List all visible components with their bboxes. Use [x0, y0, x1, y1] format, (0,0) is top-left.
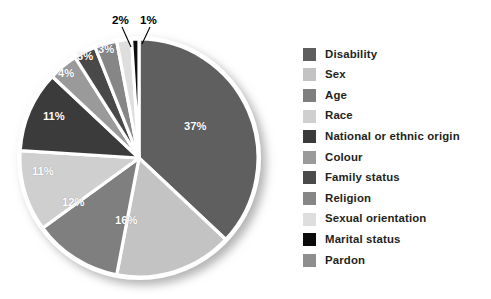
legend-item-label: Sex	[325, 69, 346, 80]
legend-item-label: Age	[325, 90, 347, 101]
chart-legend: DisabilitySexAgeRaceNational or ethnic o…	[303, 44, 489, 271]
legend-item[interactable]: Religion	[303, 188, 489, 209]
pie-callout-value-label: 2%	[112, 13, 129, 26]
legend-color-swatch	[303, 68, 316, 81]
legend-color-swatch	[303, 254, 316, 267]
pie-slice-value-label: 3%	[77, 50, 93, 62]
legend-item-label: National or ethnic origin	[325, 131, 460, 142]
pie-slice-value-label: 3%	[98, 43, 114, 55]
legend-item[interactable]: Disability	[303, 44, 489, 65]
legend-item-label: Family status	[325, 172, 400, 183]
pie-svg	[0, 0, 290, 299]
legend-item[interactable]: Marital status	[303, 229, 489, 250]
legend-color-swatch	[303, 171, 316, 184]
legend-item-label: Pardon	[325, 255, 365, 266]
pie-slice-value-label: 37%	[184, 120, 206, 132]
legend-item-label: Sexual orientation	[325, 213, 426, 224]
legend-item-label: Disability	[325, 49, 377, 60]
legend-item[interactable]: Family status	[303, 168, 489, 189]
pie-slice-value-label: 11%	[43, 110, 65, 122]
legend-item[interactable]: National or ethnic origin	[303, 126, 489, 147]
legend-color-swatch	[303, 151, 316, 164]
legend-color-swatch	[303, 213, 316, 226]
legend-color-swatch	[303, 110, 316, 123]
legend-color-swatch	[303, 233, 316, 246]
legend-item[interactable]: Colour	[303, 147, 489, 168]
legend-item[interactable]: Race	[303, 106, 489, 127]
pie-slice-value-label: 4%	[58, 67, 74, 79]
legend-item-label: Race	[325, 110, 353, 121]
legend-color-swatch	[303, 89, 316, 102]
pie-slice-group	[20, 39, 258, 277]
pie-plot-area: 37%16%12%11%11%4%3%3% 2%1%	[0, 0, 290, 299]
legend-item-label: Marital status	[325, 234, 401, 245]
legend-color-swatch	[303, 48, 316, 61]
pie-slice-value-label: 11%	[32, 165, 54, 177]
legend-item-label: Religion	[325, 193, 371, 204]
legend-item[interactable]: Pardon	[303, 250, 489, 271]
pie-callout-value-label: 1%	[140, 13, 157, 26]
legend-color-swatch	[303, 130, 316, 143]
legend-item[interactable]: Sex	[303, 65, 489, 86]
pie-chart-figure: 37%16%12%11%11%4%3%3% 2%1% DisabilitySex…	[0, 0, 491, 299]
legend-color-swatch	[303, 192, 316, 205]
pie-slice-value-label: 16%	[115, 214, 137, 226]
pie-slice-value-label: 12%	[62, 196, 84, 208]
legend-item[interactable]: Sexual orientation	[303, 209, 489, 230]
legend-item-label: Colour	[325, 152, 363, 163]
legend-item[interactable]: Age	[303, 85, 489, 106]
